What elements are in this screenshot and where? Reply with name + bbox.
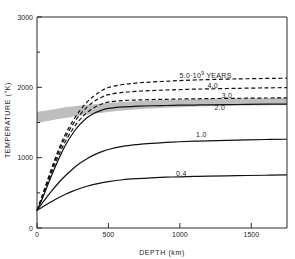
curve-label-2-0: 2.0	[215, 104, 226, 111]
tick-group	[37, 17, 251, 228]
x-tick-label-0: 0	[35, 231, 39, 238]
solidus-band	[37, 98, 287, 123]
y-tick-label-3000: 3000	[17, 14, 33, 21]
curve-label-5-0: 5.0·109 YEARS	[180, 70, 232, 79]
chart-canvas: 0100020003000050010001500 5.0·109 YEARS4…	[0, 0, 295, 259]
curve-label-4-0: 4.0	[207, 82, 218, 89]
curve-label-3-0: 3.0	[222, 92, 233, 99]
x-tick-label-500: 500	[103, 231, 115, 238]
temperature-depth-chart: 0100020003000050010001500 5.0·109 YEARS4…	[0, 0, 295, 259]
y-tick-label-1000: 1000	[17, 154, 33, 161]
x-tick-label-1500: 1500	[243, 231, 259, 238]
curve-0-4	[37, 175, 287, 210]
x-tick-label-1000: 1000	[172, 231, 188, 238]
x-axis-title: DEPTH (km)	[139, 249, 185, 257]
y-axis-title: TEMPERATURE (°K)	[4, 82, 12, 158]
curve-2-0	[37, 104, 287, 210]
y-tick-label-2000: 2000	[17, 84, 33, 91]
y-tick-label-0: 0	[29, 225, 33, 232]
curve-label-0-4: 0.4	[176, 170, 187, 177]
tick-label-group: 0100020003000050010001500	[17, 14, 259, 239]
curve-group	[37, 78, 287, 210]
curve-label-1-0: 1.0	[196, 131, 207, 138]
curve-annotation-group: 5.0·109 YEARS4.03.02.01.00.4	[176, 70, 232, 177]
curve-1-0	[37, 139, 287, 210]
